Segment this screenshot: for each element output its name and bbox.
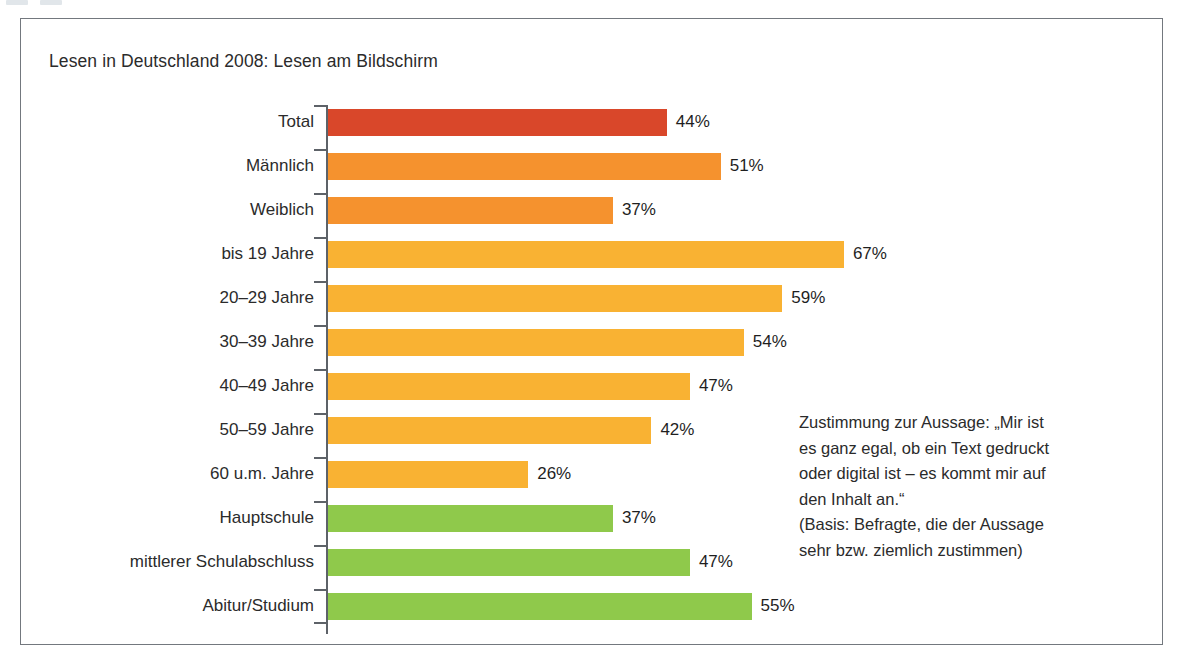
axis-tick: [314, 501, 327, 503]
axis-tick: [314, 325, 327, 327]
annotation-line: (Basis: Befragte, die der Aussage: [799, 512, 1159, 538]
bar-value-label: 55%: [761, 596, 795, 616]
category-label-text: bis 19 Jahre: [221, 244, 314, 263]
category-label-text: Hauptschule: [219, 508, 314, 527]
axis-tick: [314, 149, 327, 151]
category-label-text: 50–59 Jahre: [219, 420, 314, 439]
bar-value-label: 42%: [660, 420, 694, 440]
category-label-text: 30–39 Jahre: [219, 332, 314, 351]
chart-annotation: Zustimmung zur Aussage: „Mir istes ganz …: [799, 410, 1159, 563]
bar-value-label: 47%: [699, 552, 733, 572]
category-label-text: 20–29 Jahre: [219, 288, 314, 307]
category-label-text: Abitur/Studium: [203, 596, 315, 615]
bar: [328, 109, 667, 136]
bar-value-label: 54%: [753, 332, 787, 352]
bar: [328, 373, 690, 400]
axis-tick: [314, 369, 327, 371]
annotation-line: es ganz egal, ob ein Text gedruckt: [799, 436, 1159, 462]
bar: [328, 417, 651, 444]
axis-tick: [314, 413, 327, 415]
bar: [328, 593, 752, 620]
bar: [328, 241, 844, 268]
chart-screenshot: Lesen in Deutschland 2008: Lesen am Bild…: [0, 0, 1187, 658]
category-label: 40–49 Jahre: [31, 376, 314, 396]
annotation-line: Zustimmung zur Aussage: „Mir ist: [799, 410, 1159, 436]
category-label-text: 40–49 Jahre: [219, 376, 314, 395]
category-label: Total: [31, 112, 314, 132]
category-label-text: mittlerer Schulabschluss: [130, 552, 314, 571]
bar: [328, 505, 613, 532]
category-label: 20–29 Jahre: [31, 288, 314, 308]
axis-tick: [314, 105, 327, 107]
category-label-text: Männlich: [246, 156, 314, 175]
category-label: Männlich: [31, 156, 314, 176]
axis-tick: [314, 193, 327, 195]
category-label: Weiblich: [31, 200, 314, 220]
bar-value-label: 47%: [699, 376, 733, 396]
annotation-line: den Inhalt an.“: [799, 487, 1159, 513]
bar-value-label: 67%: [853, 244, 887, 264]
category-label-text: 60 u.m. Jahre: [210, 464, 314, 483]
scan-artifact-left: [6, 0, 28, 5]
category-label: 50–59 Jahre: [31, 420, 314, 440]
bar-value-label: 59%: [791, 288, 825, 308]
axis-tick: [314, 457, 327, 459]
category-label-text: Total: [278, 112, 314, 131]
scan-artifact-right: [40, 0, 62, 5]
category-label: 30–39 Jahre: [31, 332, 314, 352]
axis-tick: [314, 237, 327, 239]
category-label: Hauptschule: [31, 508, 314, 528]
chart-frame: Lesen in Deutschland 2008: Lesen am Bild…: [20, 18, 1163, 645]
axis-tick-end: [314, 622, 327, 624]
category-label: Abitur/Studium: [31, 596, 314, 616]
category-label-text: Weiblich: [250, 200, 314, 219]
bar: [328, 461, 528, 488]
bar: [328, 329, 744, 356]
axis-tick: [314, 589, 327, 591]
bar: [328, 285, 782, 312]
bar: [328, 549, 690, 576]
annotation-line: oder digital ist – es kommt mir auf: [799, 461, 1159, 487]
axis-tick: [314, 281, 327, 283]
axis-tick: [314, 545, 327, 547]
bar-value-label: 26%: [537, 464, 571, 484]
category-label: mittlerer Schulabschluss: [31, 552, 314, 572]
bar: [328, 153, 721, 180]
bar-value-label: 37%: [622, 200, 656, 220]
bar-value-label: 51%: [730, 156, 764, 176]
bar-value-label: 44%: [676, 112, 710, 132]
category-label: bis 19 Jahre: [31, 244, 314, 264]
annotation-line: sehr bzw. ziemlich zustimmen): [799, 538, 1159, 564]
bar-value-label: 37%: [622, 508, 656, 528]
bar: [328, 197, 613, 224]
category-label: 60 u.m. Jahre: [31, 464, 314, 484]
